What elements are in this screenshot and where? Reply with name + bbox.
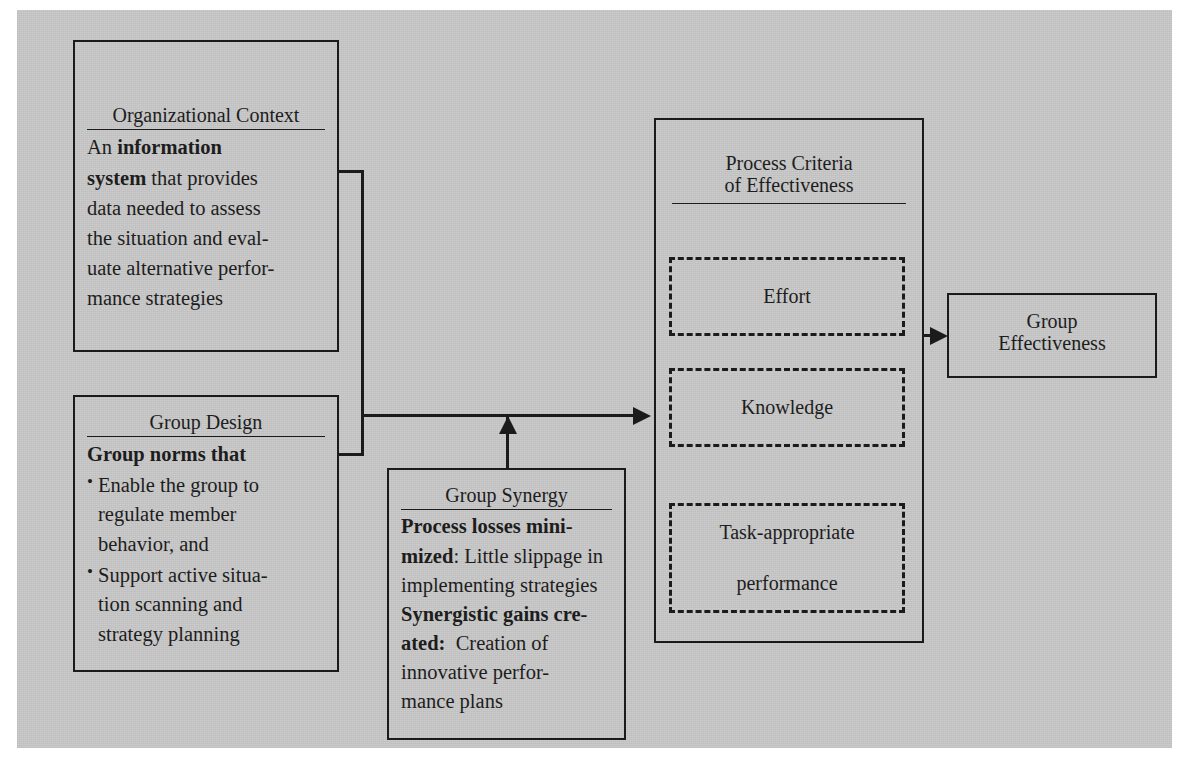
criterion-effort: Effort	[669, 257, 905, 336]
connector-vertical-spine	[361, 170, 364, 455]
diagram-page: Organizational Context An information sy…	[0, 0, 1182, 763]
arrowhead-group-synergy-up	[499, 416, 517, 434]
process-criteria-title-line2: of Effectiveness	[656, 174, 922, 196]
criterion-label: Task-appropriate	[719, 521, 854, 544]
group-design-heading: Group norms that	[75, 439, 337, 469]
arrowhead-to-process-criteria	[633, 407, 651, 425]
group-effectiveness-line2: Effectiveness	[949, 332, 1155, 354]
gs-item-1: Process losses mini-mized: Little slippa…	[401, 515, 603, 595]
group-effectiveness-box: Group Effectiveness	[947, 293, 1157, 378]
oc-line-6: mance strategies	[87, 287, 223, 309]
list-item: Support active situa-tion scanning andst…	[87, 561, 329, 650]
group-design-title: Group Design	[75, 411, 337, 433]
group-synergy-box: Group Synergy Process losses mini-mized:…	[387, 468, 626, 740]
process-criteria-box: Process Criteria of Effectiveness Effort…	[654, 118, 924, 643]
oc-line-1: An information	[87, 136, 222, 158]
connector-org-context-stub	[337, 170, 364, 173]
connector-group-design-stub	[337, 453, 364, 456]
criterion-label: Effort	[763, 285, 810, 308]
arrowhead-to-group-effectiveness	[930, 327, 948, 345]
group-design-bullets: Enable the group toregulate memberbehavi…	[75, 471, 337, 650]
oc-line-5: uate alternative perfor-	[87, 257, 274, 279]
group-synergy-title: Group Synergy	[389, 484, 624, 506]
diagram-canvas: Organizational Context An information sy…	[17, 10, 1172, 748]
organizational-context-title: Organizational Context	[75, 104, 337, 126]
title-divider	[87, 129, 325, 130]
process-criteria-title-line1: Process Criteria	[656, 152, 922, 174]
criterion-label-2: performance	[736, 572, 837, 595]
criterion-knowledge: Knowledge	[669, 368, 905, 447]
gs-item-2: Synergistic gains cre-ated: Creation ofi…	[401, 603, 587, 712]
title-divider	[87, 436, 325, 437]
group-synergy-body: Process losses mini-mized: Little slippa…	[389, 512, 624, 716]
oc-line-2: system that provides	[87, 167, 258, 189]
organizational-context-body: An information system that provides data…	[75, 132, 337, 313]
title-divider	[401, 509, 612, 510]
group-design-box: Group Design Group norms that Enable the…	[73, 395, 339, 672]
criterion-label: Knowledge	[741, 396, 833, 419]
title-divider	[672, 203, 906, 204]
criterion-task-appropriate-performance: Task-appropriate performance	[669, 503, 905, 613]
oc-line-4: the situation and eval-	[87, 227, 269, 249]
group-effectiveness-line1: Group	[949, 310, 1155, 332]
oc-line-3: data needed to assess	[87, 197, 261, 219]
organizational-context-box: Organizational Context An information sy…	[73, 40, 339, 352]
list-item: Enable the group toregulate memberbehavi…	[87, 471, 329, 560]
